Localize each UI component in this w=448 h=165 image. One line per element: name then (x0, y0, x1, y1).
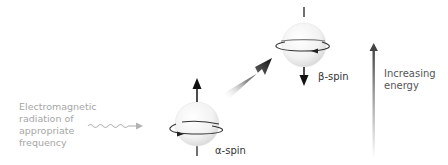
radiation-label: Electromagnetic radiation of appropriate… (19, 101, 119, 149)
transition-arrow-icon (224, 58, 272, 99)
down-arrow-icon (300, 75, 309, 86)
up-arrow-icon (193, 78, 202, 89)
radiation-label-line: Electromagnetic (19, 101, 119, 113)
energy-arrow-icon (370, 43, 378, 158)
alpha-spin-label: α-spin (215, 145, 246, 156)
radiation-label-line: appropriate (19, 125, 119, 137)
energy-label-line: energy (384, 80, 436, 92)
beta-spin-label: β-spin (318, 71, 349, 82)
energy-label: Increasing energy (384, 68, 436, 92)
radiation-label-line: radiation of (19, 113, 119, 125)
radiation-label-line: frequency (19, 137, 119, 149)
energy-label-line: Increasing (384, 68, 436, 80)
